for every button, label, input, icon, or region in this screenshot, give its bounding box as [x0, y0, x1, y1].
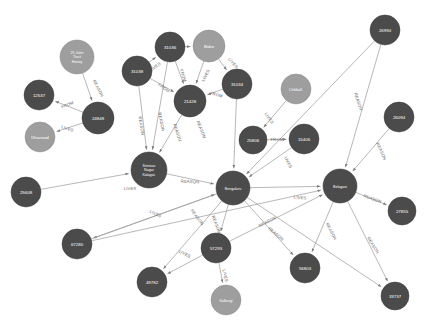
edge-label: REASON	[363, 193, 382, 204]
edge-label: LIVES	[124, 186, 137, 191]
graph-node[interactable]: 56803	[290, 253, 320, 283]
node-label: Belagavi	[333, 185, 347, 189]
graph-node[interactable]: Kalburgi	[211, 285, 241, 315]
edge-label: REASON	[190, 208, 205, 226]
node-label: Tract	[73, 55, 81, 59]
edge-label: REASON	[353, 92, 364, 111]
node-label: Bengaluru	[225, 187, 241, 191]
node-label: Honey	[72, 60, 83, 64]
edge-label: FROM	[209, 91, 223, 99]
node-label: 56803	[299, 266, 312, 271]
node-label: 33737	[389, 294, 402, 299]
graph-node[interactable]: Dharwad	[25, 122, 55, 152]
graph-node[interactable]: 15406	[289, 124, 319, 154]
edge-label: LIVES	[201, 69, 211, 83]
nodes-layer[interactable]: 25 JohnTractHoney1253724848Dharwad31036B…	[11, 15, 416, 315]
node-label: Chikball.	[289, 88, 303, 92]
graph-edge[interactable]	[247, 41, 375, 174]
node-label: Bidar	[204, 44, 215, 49]
node-label: 25608	[20, 190, 33, 195]
node-label: 21428	[184, 99, 197, 104]
edge-label: LIVES	[227, 57, 239, 70]
graph-node[interactable]: 27855	[388, 197, 416, 225]
node-label: 31038	[131, 69, 144, 74]
edge-label: REASON	[92, 79, 105, 98]
graph-node[interactable]: 33737	[381, 282, 409, 310]
graph-node[interactable]: 26994	[370, 15, 400, 45]
edge-label: REASON	[211, 215, 222, 234]
graph-edge[interactable]	[41, 174, 129, 190]
graph-edge[interactable]	[218, 59, 226, 70]
node-label: 24848	[92, 116, 105, 121]
graph-node[interactable]: 25608	[11, 177, 41, 207]
graph-node[interactable]: 25806	[239, 126, 267, 154]
node-label: 26094	[393, 115, 406, 120]
edge-label: REASON	[267, 226, 284, 242]
graph-node[interactable]: 31034	[222, 69, 252, 99]
node-label: 67280	[71, 242, 84, 247]
edge-label: REASON	[172, 123, 183, 142]
node-label: Kalburgi	[219, 299, 232, 303]
edge-label: REASON	[375, 142, 387, 161]
graph-node[interactable]: Chikball.	[281, 74, 311, 104]
edge-label: LIVES	[283, 156, 293, 170]
edge-label: LIVES	[178, 249, 192, 259]
graph-node[interactable]: 49782	[137, 267, 167, 297]
edge-label: LIVES	[61, 124, 75, 133]
edge-label: FROM	[271, 137, 284, 142]
graph-node[interactable]: Bengaluru	[216, 171, 250, 205]
edge-label: REASON	[137, 116, 145, 135]
graph-node[interactable]: 31038	[122, 56, 152, 86]
graph-edge[interactable]	[348, 201, 388, 281]
node-label: 12537	[33, 93, 46, 98]
graph-node[interactable]: 31036	[155, 32, 185, 62]
node-label: 31036	[164, 45, 177, 50]
node-label: 57293	[210, 246, 223, 251]
graph-edge[interactable]	[219, 263, 223, 283]
graph-edge[interactable]	[250, 186, 321, 187]
edge-label: REASON	[366, 236, 380, 254]
graph-node[interactable]: 24848	[82, 102, 114, 134]
node-label: 25 John	[71, 51, 84, 55]
node-label: Kalagat.	[142, 173, 155, 177]
graph-svg: REASONFROMLIVESLIVESFROMLIVESLIVESFROMFR…	[0, 0, 436, 327]
graph-edge[interactable]	[152, 62, 167, 150]
node-label: 15406	[298, 137, 311, 142]
graph-edge[interactable]	[83, 73, 92, 100]
graph-node[interactable]: 67280	[62, 229, 92, 259]
edge-label: LIVES	[264, 112, 275, 125]
edge-label: REASON	[181, 179, 200, 185]
node-label: Srinivas	[143, 164, 156, 168]
graph-node[interactable]: 57293	[201, 233, 231, 263]
graph-node[interactable]: 21428	[174, 85, 206, 117]
graph-node[interactable]: Belagavi	[323, 169, 357, 203]
edge-label: LIVES	[222, 269, 230, 282]
node-label: 27855	[396, 209, 409, 214]
node-label: 25806	[247, 138, 260, 143]
graph-node[interactable]: 12537	[24, 80, 54, 110]
graph-edge[interactable]	[149, 57, 156, 62]
graph-edge[interactable]	[234, 99, 237, 169]
node-label: 26994	[379, 28, 392, 33]
node-label: 31034	[231, 82, 244, 87]
node-label: Nagar	[144, 168, 155, 172]
node-label: 49782	[146, 280, 159, 285]
graph-node[interactable]: 25 JohnTractHoney	[60, 40, 94, 74]
network-graph-canvas[interactable]: REASONFROMLIVESLIVESFROMLIVESLIVESFROMFR…	[0, 0, 436, 327]
graph-node[interactable]: Bidar	[193, 30, 225, 62]
graph-node[interactable]: SrinivasNagarKalagat.	[131, 152, 167, 188]
edge-label: REASON	[196, 120, 208, 139]
graph-edge[interactable]	[221, 204, 229, 231]
node-label: Dharwad	[31, 135, 49, 140]
graph-node[interactable]: 26094	[384, 102, 414, 132]
edge-label: REASON	[157, 112, 165, 131]
edge-label: LIVES	[294, 194, 307, 200]
edge-label: REASON	[325, 222, 338, 241]
edge-label: FROM	[157, 82, 171, 94]
